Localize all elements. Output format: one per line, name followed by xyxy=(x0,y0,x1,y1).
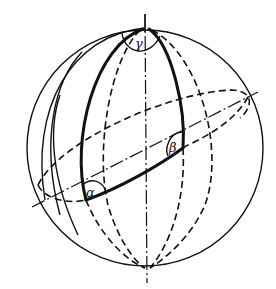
tilted-axis xyxy=(32,92,258,207)
left-arc-2 xyxy=(51,52,82,215)
left-arc-3 xyxy=(54,95,78,235)
label-beta: β xyxy=(168,140,177,155)
triangle-base xyxy=(86,148,183,200)
sphere-diagram: γ β α xyxy=(0,0,276,289)
meridian-back-left xyxy=(103,30,145,268)
equator-back xyxy=(38,90,250,185)
equator-front-right xyxy=(183,97,248,148)
label-gamma: γ xyxy=(135,36,143,51)
meridian-front-left-lower xyxy=(86,200,145,268)
label-alpha: α xyxy=(86,185,95,200)
triangle-side-right xyxy=(149,29,183,148)
triangle-side-left xyxy=(81,29,143,200)
